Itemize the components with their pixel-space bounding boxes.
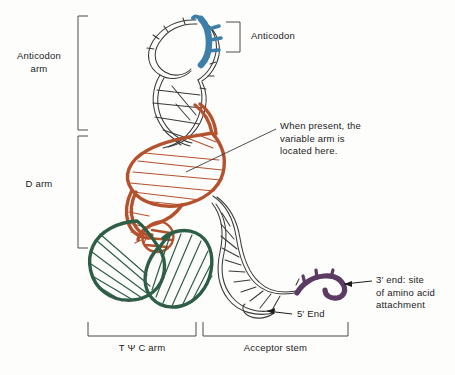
anticodon-bracket bbox=[226, 22, 240, 52]
five-prime-end-label: 5′ End bbox=[297, 308, 325, 321]
acceptor-stem-bracket bbox=[203, 322, 348, 336]
d-arm-helix bbox=[127, 104, 225, 240]
acceptor-stem-helix bbox=[212, 196, 305, 318]
d-arm-bracket bbox=[78, 136, 88, 248]
three-prime-terminus bbox=[297, 270, 345, 298]
acceptor-stem-label: Acceptor stem bbox=[203, 342, 348, 355]
three-prime-arrow bbox=[344, 281, 372, 287]
three-prime-end-label: 3′ end: site of amino acid attachment bbox=[376, 274, 435, 312]
tpsic-arm-bracket bbox=[88, 322, 196, 336]
anticodon-arm-label: Anticodon arm bbox=[8, 50, 70, 75]
d-arm-label: D arm bbox=[8, 178, 70, 191]
trna-structure-figure: Anticodon arm D arm Anticodon When prese… bbox=[0, 0, 455, 375]
anticodon-arm-bracket bbox=[78, 16, 88, 130]
tpsic-arm-label: T Ψ C arm bbox=[88, 342, 196, 355]
variable-arm-note-label: When present, the variable arm is locate… bbox=[280, 120, 361, 158]
anticodon-label: Anticodon bbox=[251, 30, 295, 43]
